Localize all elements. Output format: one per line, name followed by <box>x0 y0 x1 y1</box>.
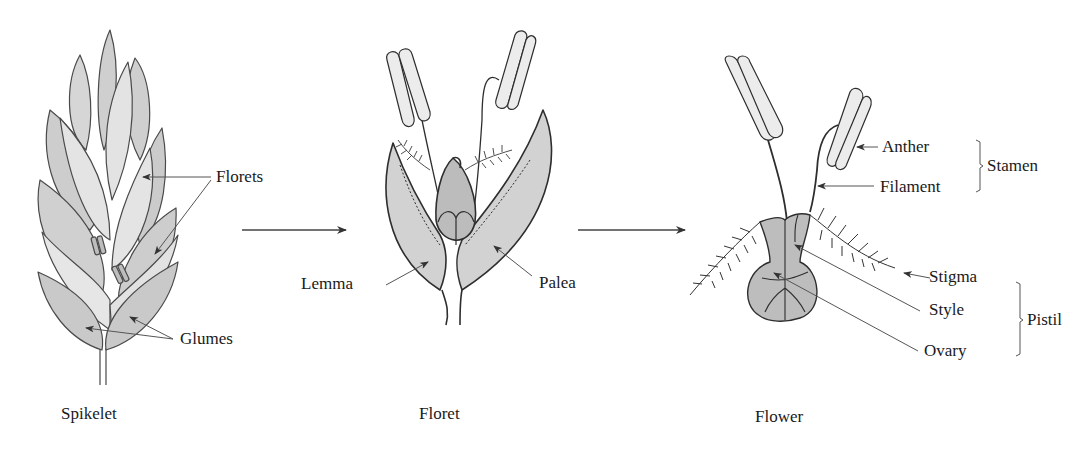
label-glumes: Glumes <box>180 330 233 347</box>
label-ovary: Ovary <box>924 342 966 359</box>
label-lemma: Lemma <box>301 275 353 292</box>
diagram-canvas <box>0 0 1085 449</box>
label-anther: Anther <box>882 138 929 155</box>
label-florets: Florets <box>216 168 263 185</box>
label-filament: Filament <box>880 178 940 195</box>
stamen-bracket <box>976 140 983 192</box>
label-stigma: Stigma <box>929 268 977 285</box>
floret-drawing <box>386 31 551 325</box>
caption-flower: Flower <box>755 408 803 425</box>
label-stamen: Stamen <box>987 157 1038 174</box>
pistil-bracket <box>1016 282 1023 356</box>
caption-spikelet: Spikelet <box>61 405 117 422</box>
label-pistil: Pistil <box>1027 311 1062 328</box>
label-palea: Palea <box>539 274 576 291</box>
spikelet-drawing <box>38 30 178 385</box>
flower-leaders <box>774 140 1023 356</box>
label-style: Style <box>929 301 964 318</box>
caption-floret: Floret <box>419 405 460 422</box>
stigma-pointer <box>904 273 930 278</box>
spikelet-stalk <box>100 348 106 385</box>
